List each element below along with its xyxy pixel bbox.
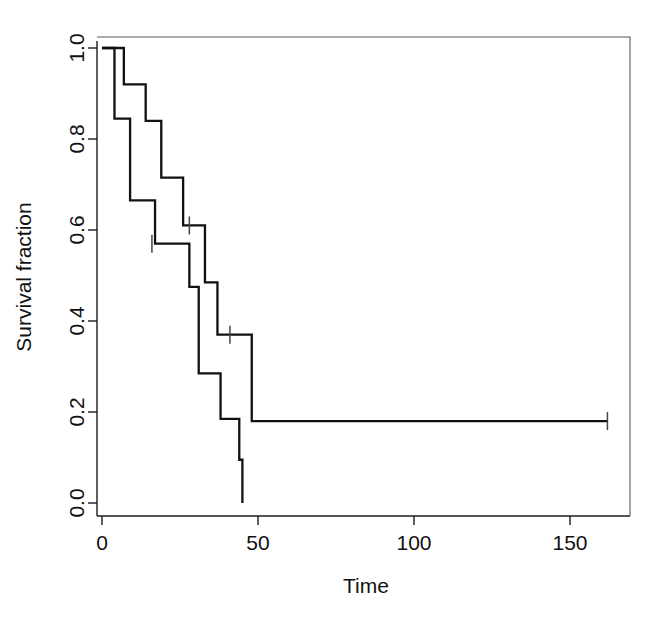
- y-tick-label-1.0: 1.0: [65, 33, 88, 62]
- y-tick-label-0.6: 0.6: [65, 215, 88, 244]
- survival-curves: [102, 48, 607, 503]
- y-tick-label-0.8: 0.8: [65, 124, 88, 153]
- y-axis-tick-labels: 1.0 0.8 0.6 0.4 0.2 0.0: [65, 33, 88, 517]
- y-axis-ticks: [88, 48, 97, 503]
- plot-frame-border: [97, 37, 630, 516]
- survival-curve-upper: [102, 48, 607, 421]
- kaplan-meier-chart: 1.0 0.8 0.6 0.4 0.2 0.0 0 50 100 150 Tim…: [0, 0, 660, 624]
- plot-frame: [97, 37, 630, 516]
- x-tick-label-0: 0: [96, 531, 108, 554]
- y-tick-label-0.2: 0.2: [65, 397, 88, 426]
- x-axis-ticks: [102, 516, 570, 525]
- y-axis-title: Survival fraction: [12, 202, 35, 351]
- x-tick-label-150: 150: [552, 531, 587, 554]
- survival-curve-lower: [102, 48, 242, 503]
- y-tick-label-0.0: 0.0: [65, 488, 88, 517]
- x-tick-label-100: 100: [396, 531, 431, 554]
- y-tick-label-0.4: 0.4: [65, 306, 88, 336]
- axis-lines: [97, 41, 630, 516]
- survival-plot-figure: 1.0 0.8 0.6 0.4 0.2 0.0 0 50 100 150 Tim…: [0, 0, 660, 624]
- x-tick-label-50: 50: [246, 531, 269, 554]
- x-axis-title: Time: [343, 574, 389, 597]
- x-axis-tick-labels: 0 50 100 150: [96, 531, 587, 554]
